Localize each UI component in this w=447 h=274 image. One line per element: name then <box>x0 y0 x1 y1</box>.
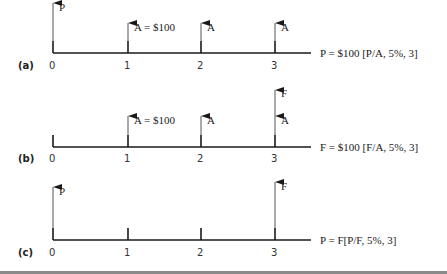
arrow-label: F <box>281 87 287 99</box>
arrow-label: A = $100 <box>134 21 176 33</box>
period-label: 1 <box>124 153 130 164</box>
period-label: 2 <box>197 60 203 71</box>
equation: F = $100 [F/A, 5%, 3] <box>320 141 418 153</box>
period-label: 0 <box>49 247 55 258</box>
period-label: 3 <box>271 153 277 164</box>
arrow-label: P <box>59 1 65 13</box>
period-label: 0 <box>49 153 55 164</box>
arrow-label: A <box>281 114 289 126</box>
period-label: 2 <box>197 247 203 258</box>
arrow-label: P <box>59 185 65 197</box>
diagram-b: A = $100 A A F 0 1 2 3 (b) F = $100 [F/A… <box>18 87 418 164</box>
arrow-label: A = $100 <box>134 114 176 126</box>
period-label: 3 <box>271 60 277 71</box>
diagram-label: (b) <box>18 153 34 164</box>
arrow-label: A <box>281 21 289 33</box>
arrow-label: A <box>207 114 215 126</box>
period-label: 0 <box>49 60 55 71</box>
arrow-label: F <box>281 180 287 192</box>
diagram-label: (a) <box>18 60 34 71</box>
diagram-c: P F 0 1 2 3 (c) P = F[P/F, 5%, 3] <box>18 180 396 258</box>
diagram-label: (c) <box>18 247 33 258</box>
period-label: 2 <box>197 153 203 164</box>
period-label: 1 <box>124 247 130 258</box>
period-label: 1 <box>124 60 130 71</box>
equation: P = $100 [P/A, 5%, 3] <box>320 47 418 59</box>
arrow-label: A <box>207 21 215 33</box>
period-label: 3 <box>271 247 277 258</box>
equation: P = F[P/F, 5%, 3] <box>320 234 396 246</box>
diagram-a: P A = $100 A A 0 1 2 3 (a) P = $100 [P/A… <box>18 1 418 71</box>
cash-flow-diagrams: P A = $100 A A 0 1 2 3 (a) P = $100 [P/A… <box>0 0 447 274</box>
